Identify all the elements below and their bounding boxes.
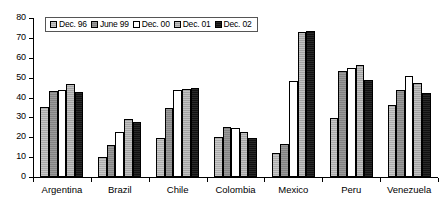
legend-item: Dec. 02 <box>215 20 252 29</box>
bar <box>156 138 165 177</box>
bar <box>214 137 223 177</box>
legend-item: Dec. 96 <box>50 20 87 29</box>
y-axis-tick-label: 50 <box>0 73 26 82</box>
x-axis-category-label: Chile <box>167 184 189 195</box>
bar <box>388 105 397 177</box>
bar <box>98 157 107 177</box>
bar <box>364 80 373 177</box>
legend-swatch-icon <box>50 21 57 28</box>
bar <box>248 138 257 177</box>
bar <box>422 93 431 177</box>
x-axis-tick <box>207 178 208 182</box>
legend-item: June 99 <box>91 20 129 29</box>
legend-label: Dec. 96 <box>59 20 87 29</box>
bar <box>396 90 405 177</box>
legend-label: June 99 <box>100 20 129 29</box>
legend-swatch-icon <box>215 21 222 28</box>
bar <box>66 84 75 177</box>
bar <box>58 90 67 177</box>
y-axis-tick-label: 60 <box>0 53 26 62</box>
x-axis-tick <box>33 178 34 182</box>
legend-label: Dec. 02 <box>224 20 252 29</box>
x-axis-tick <box>149 178 150 182</box>
y-axis-tick-label: 80 <box>0 13 26 22</box>
legend-swatch-icon <box>133 21 140 28</box>
x-axis-tick <box>264 178 265 182</box>
bar <box>338 71 347 177</box>
y-axis-tick-label: 30 <box>0 112 26 121</box>
x-axis-category-label: Colombia <box>215 184 255 195</box>
bar <box>231 128 240 177</box>
x-axis-category-label: Peru <box>341 184 361 195</box>
legend-item: Dec. 01 <box>174 20 211 29</box>
y-axis-tick-label: 40 <box>0 93 26 102</box>
bar <box>223 127 232 177</box>
bar <box>124 119 133 177</box>
bar <box>330 118 339 177</box>
bar-chart: 01020304050607080 ArgentinaBrazilChileCo… <box>0 0 446 204</box>
x-axis-line <box>33 177 438 178</box>
bar <box>182 89 191 177</box>
x-axis-tick <box>91 178 92 182</box>
bar <box>49 91 58 177</box>
y-axis-tick-label: 0 <box>0 172 26 181</box>
x-axis-tick <box>322 178 323 182</box>
bar <box>347 68 356 177</box>
legend-swatch-icon <box>91 21 98 28</box>
bar <box>191 88 200 177</box>
bar <box>133 122 142 177</box>
bar <box>165 108 174 177</box>
bar <box>280 144 289 177</box>
bar <box>75 92 84 177</box>
bar <box>107 145 116 177</box>
bar <box>115 132 124 177</box>
bar <box>289 81 298 177</box>
bar <box>240 132 249 177</box>
x-axis-tick <box>380 178 381 182</box>
legend-label: Dec. 00 <box>142 20 170 29</box>
x-axis-category-label: Argentina <box>42 184 83 195</box>
y-axis-tick-label: 10 <box>0 152 26 161</box>
x-axis-category-label: Venezuela <box>387 184 431 195</box>
chart-legend: Dec. 96June 99Dec. 00Dec. 01Dec. 02 <box>45 17 258 32</box>
legend-label: Dec. 01 <box>183 20 211 29</box>
bar <box>405 76 414 177</box>
y-axis-tick-label: 70 <box>0 33 26 42</box>
legend-item: Dec. 00 <box>133 20 170 29</box>
bar <box>298 32 307 177</box>
bar <box>173 90 182 177</box>
bar <box>272 153 281 177</box>
x-axis-category-label: Brazil <box>108 184 132 195</box>
y-axis-tick-label: 20 <box>0 132 26 141</box>
legend-swatch-icon <box>174 21 181 28</box>
bar <box>40 107 49 177</box>
bar <box>356 65 365 177</box>
bar <box>413 83 422 177</box>
bar <box>306 31 315 177</box>
x-axis-tick <box>438 178 439 182</box>
x-axis-category-label: Mexico <box>278 184 308 195</box>
plot-area <box>33 18 438 177</box>
